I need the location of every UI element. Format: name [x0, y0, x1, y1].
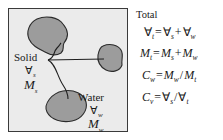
- variable-glyph: M: [183, 46, 193, 60]
- operator: =: [154, 25, 163, 39]
- variable-glyph: M: [161, 46, 171, 60]
- mass-glyph-solid: M: [24, 77, 35, 92]
- mass-glyph-water: M: [88, 116, 99, 131]
- label-water-mass: Mw: [88, 117, 104, 134]
- variable-glyph: C: [142, 68, 150, 82]
- equations-title: Total: [136, 9, 157, 20]
- mass-subscript-water: w: [99, 126, 104, 134]
- label-solid: Solid: [14, 52, 37, 63]
- equation-column: Total ∀t=∀s+∀w Mt=Ms+Mw Cw=Mw/Mt Cv=∀s/∀…: [136, 6, 223, 134]
- solid-blob-top: [28, 17, 67, 55]
- soil-phase-figure: Solid ∀s Ms Water ∀w Mw Total ∀t=∀s+∀w M…: [0, 0, 223, 140]
- mass-subscript-solid: s: [35, 87, 38, 95]
- volume-glyph: ∀: [162, 90, 170, 104]
- volume-glyph-solid: ∀: [25, 64, 33, 76]
- variable-glyph: M: [184, 68, 194, 82]
- operator: =: [153, 90, 162, 104]
- subscript: w: [191, 32, 196, 41]
- volume-glyph: ∀: [163, 25, 171, 39]
- operator: =: [155, 68, 164, 82]
- variable-glyph: C: [142, 90, 150, 104]
- operator: +: [174, 46, 183, 60]
- subscript: w: [193, 53, 198, 62]
- equation-volumetric-solid-content: Cv=∀s/∀t: [142, 90, 189, 106]
- label-water: Water: [78, 92, 104, 103]
- subscript: t: [186, 97, 188, 106]
- leader-line-water: [48, 59, 104, 60]
- variable-glyph: M: [140, 46, 150, 60]
- water-blob: [98, 45, 123, 72]
- subscript: t: [194, 75, 196, 84]
- operator: =: [152, 46, 161, 60]
- volume-glyph: ∀: [183, 25, 191, 39]
- volume-glyph-water: ∀: [90, 104, 98, 116]
- operator: +: [174, 25, 183, 39]
- equation-volume-balance: ∀t=∀s+∀w: [144, 25, 196, 41]
- variable-glyph: M: [164, 68, 174, 82]
- equation-mass-balance: Mt=Ms+Mw: [140, 46, 198, 62]
- volume-glyph: ∀: [144, 25, 152, 39]
- label-solid-mass: Ms: [24, 78, 38, 95]
- equation-gravimetric-water-content: Cw=Mw/Mt: [142, 68, 196, 84]
